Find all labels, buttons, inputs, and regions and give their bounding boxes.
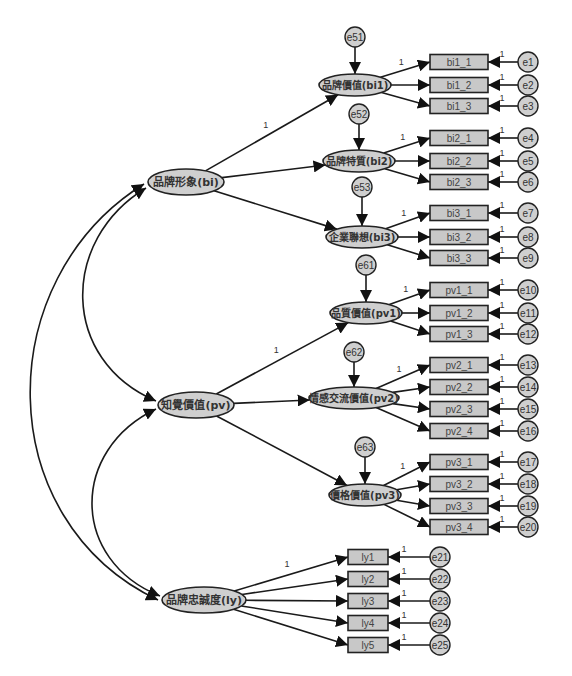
latent-label: 知覺價值(pv) <box>160 398 230 412</box>
error-label: e61 <box>358 260 375 271</box>
loading-ly-ly2 <box>242 579 348 594</box>
indicator-label: ly1 <box>362 552 375 563</box>
error-e11: e11 <box>518 303 538 323</box>
error-e22: e22 <box>430 569 450 589</box>
error-label: e15 <box>520 404 537 415</box>
indicator-label: pv3_1 <box>445 457 473 468</box>
error-label: e24 <box>432 618 449 629</box>
error-label: e17 <box>520 457 537 468</box>
indicator-bi1_2: bi1_2 <box>430 78 488 93</box>
disturbance-e51: e51 <box>345 27 365 47</box>
path-pv-pv2 <box>234 400 310 403</box>
latent-label: 價格價值(pv3) <box>329 489 400 501</box>
loading-pv3-pv3_1 <box>384 462 430 486</box>
error-label: e2 <box>522 80 534 91</box>
error-label: e52 <box>351 109 368 120</box>
latent-pv2: 情感交流價值(pv2) <box>309 387 399 409</box>
error-weight-label: 1 <box>499 352 504 362</box>
loading-weight-label: 1 <box>401 208 406 218</box>
indicator-label: bi1_2 <box>447 80 472 91</box>
loading-ly-ly1 <box>234 557 348 591</box>
indicator-label: bi1_1 <box>447 57 472 68</box>
loading-bi1-bi1_1 <box>380 62 430 77</box>
error-e16: e16 <box>518 421 538 441</box>
path-bi-bi3 <box>214 191 337 229</box>
error-e20: e20 <box>518 517 538 537</box>
error-weight-label: 1 <box>401 632 406 642</box>
indicator-label: ly4 <box>362 618 375 629</box>
error-weight-label: 1 <box>499 245 504 255</box>
error-label: e13 <box>520 360 537 371</box>
loading-pv2-pv2_1 <box>376 365 430 388</box>
indicator-bi1_1: bi1_1 <box>430 55 488 70</box>
latent-pv: 知覺價值(pv) <box>158 392 234 418</box>
disturbance-e52: e52 <box>349 104 369 124</box>
sem-diagram: 1111111111111111111111111111111111 e51bi… <box>0 0 572 676</box>
indicator-label: bi1_3 <box>447 101 472 112</box>
indicator-pv2_4: pv2_4 <box>430 424 488 439</box>
indicator-bi2_3: bi2_3 <box>430 175 488 190</box>
indicator-label: pv3_4 <box>445 522 473 533</box>
error-weight-label: 1 <box>499 300 504 310</box>
error-weight-label: 1 <box>401 544 406 554</box>
error-weight-label: 1 <box>499 418 504 428</box>
error-e10: e10 <box>518 280 538 300</box>
error-label: e23 <box>432 596 449 607</box>
error-weight-label: 1 <box>499 148 504 158</box>
error-weight-label: 1 <box>499 93 504 103</box>
error-weight-label: 1 <box>499 396 504 406</box>
indicator-label: pv2_3 <box>445 404 473 415</box>
indicator-pv3_2: pv3_2 <box>430 477 488 492</box>
error-weight-label: 1 <box>499 471 504 481</box>
loading-pv3-pv3_3 <box>396 500 430 506</box>
indicator-label: bi3_1 <box>447 208 472 219</box>
loading-bi3-bi3_1 <box>386 213 430 229</box>
indicator-pv3_3: pv3_3 <box>430 499 488 514</box>
error-e4: e4 <box>518 128 538 148</box>
indicator-bi2_2: bi2_2 <box>430 154 488 169</box>
error-e19: e19 <box>518 496 538 516</box>
loading-weight-label: 1 <box>400 461 405 471</box>
loading-bi1-bi1_3 <box>382 92 430 106</box>
error-e8: e8 <box>518 227 538 247</box>
error-label: e18 <box>520 479 537 490</box>
path-pv-pv3 <box>217 416 348 486</box>
indicator-label: pv2_4 <box>445 426 473 437</box>
loading-weight-label: 1 <box>403 284 408 294</box>
error-weight-label: 1 <box>499 169 504 179</box>
latent-label: 品牌價值(bi1) <box>322 79 389 91</box>
error-label: e7 <box>522 208 534 219</box>
indicator-bi3_3: bi3_3 <box>430 251 488 266</box>
covariance-pv-ly <box>92 409 160 596</box>
loading-pv3-pv3_2 <box>396 484 430 490</box>
indicator-ly5: ly5 <box>348 638 388 653</box>
error-e1: e1 <box>518 52 538 72</box>
error-weight-label: 1 <box>499 125 504 135</box>
loading-weight-label: 1 <box>397 364 402 374</box>
error-weight-label: 1 <box>401 610 406 620</box>
latent-pv3: 價格價值(pv3) <box>329 484 401 506</box>
error-label: e21 <box>432 552 449 563</box>
error-label: e5 <box>522 156 534 167</box>
latent-label: 品牌特質(bi2) <box>326 155 393 167</box>
indicator-label: pv2_1 <box>445 360 473 371</box>
error-e12: e12 <box>518 324 538 344</box>
path-bi-bi1 <box>205 95 338 171</box>
indicator-pv2_1: pv2_1 <box>430 358 488 373</box>
loading-pv2-pv2_4 <box>376 408 430 431</box>
indicator-label: pv3_3 <box>445 501 473 512</box>
error-weight-label: 1 <box>401 588 406 598</box>
error-e6: e6 <box>518 172 538 192</box>
loading-bi2-bi2_1 <box>384 138 430 153</box>
error-label: e16 <box>520 426 537 437</box>
indicator-bi2_1: bi2_1 <box>430 131 488 146</box>
covariance-bi-pv <box>83 188 156 401</box>
error-weight-label: 1 <box>499 277 504 287</box>
error-e15: e15 <box>518 399 538 419</box>
indicator-bi3_1: bi3_1 <box>430 206 488 221</box>
error-e9: e9 <box>518 248 538 268</box>
latent-label: 品質價值(pv1) <box>331 307 401 319</box>
error-label: e20 <box>520 522 537 533</box>
error-e14: e14 <box>518 377 538 397</box>
disturbance-e53: e53 <box>352 177 372 197</box>
